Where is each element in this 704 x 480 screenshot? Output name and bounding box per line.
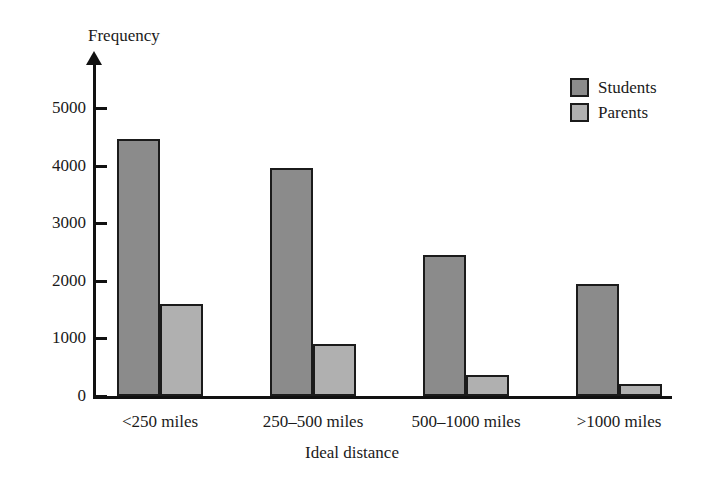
- x-axis-line: [93, 396, 672, 399]
- legend-item-parents: Parents: [570, 103, 657, 122]
- bars-layer: [0, 0, 704, 396]
- bar-parents-1: [313, 344, 356, 396]
- x-axis-category-label: <250 miles: [122, 412, 198, 432]
- bar-students-1: [270, 168, 313, 396]
- legend-swatch-students: [570, 78, 589, 97]
- bar-students-3: [576, 284, 619, 396]
- chart-legend: Students Parents: [570, 78, 657, 128]
- bar-students-2: [423, 255, 466, 396]
- x-axis-category-label: >1000 miles: [577, 412, 662, 432]
- x-axis-category-label: 500–1000 miles: [411, 412, 520, 432]
- bar-chart: Frequency 010002000300040005000 <250 mil…: [0, 0, 704, 480]
- bar-parents-2: [466, 375, 509, 396]
- legend-swatch-parents: [570, 103, 589, 122]
- legend-item-students: Students: [570, 78, 657, 97]
- bar-parents-3: [619, 384, 662, 396]
- bar-students-0: [117, 139, 160, 396]
- legend-label-parents: Parents: [598, 104, 648, 121]
- x-axis-title: Ideal distance: [0, 443, 704, 463]
- legend-label-students: Students: [598, 79, 657, 96]
- bar-parents-0: [160, 304, 203, 396]
- x-axis-category-label: 250–500 miles: [263, 412, 364, 432]
